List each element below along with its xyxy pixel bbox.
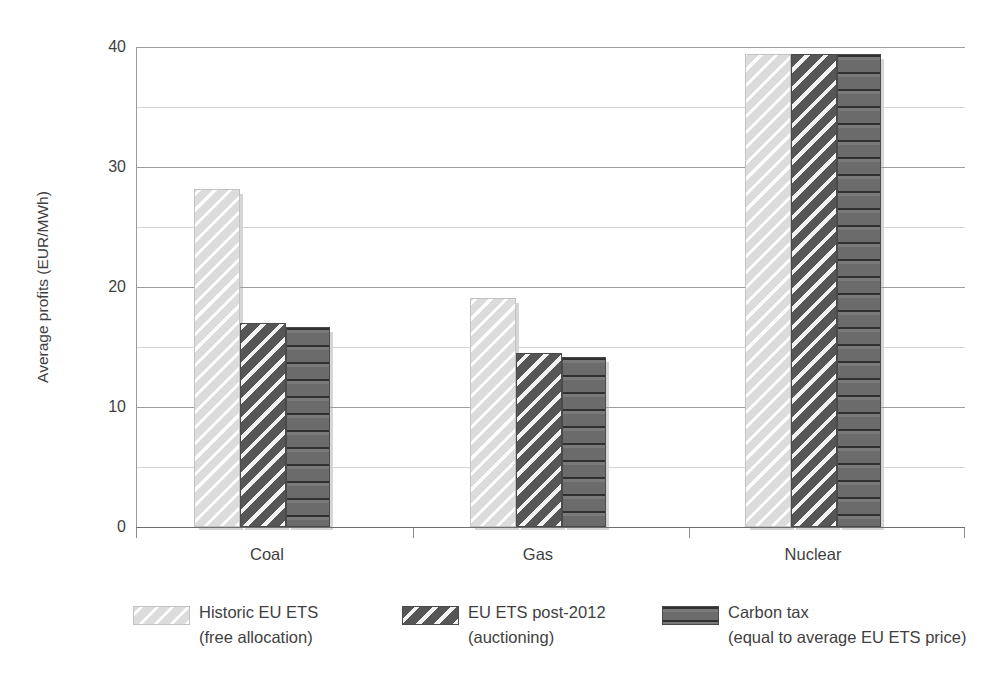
bar-gas-historic-eu-ets[interactable] (470, 298, 516, 527)
y-tick-label-0: 0 (86, 519, 126, 535)
x-axis-line (136, 527, 965, 528)
legend-label-carbon-tax: Carbon tax (equal to average EU ETS pric… (728, 600, 966, 650)
bar-gas-eu-ets-post-2012[interactable] (516, 353, 562, 527)
x-axis-tick-start (136, 528, 137, 538)
y-tick-label-40: 40 (86, 39, 126, 55)
chart-legend: Historic EU ETS (free allocation) EU ETS… (0, 600, 985, 670)
bar-nuclear-carbon-tax[interactable] (837, 54, 881, 527)
legend-swatch-carbon-tax (662, 606, 719, 625)
category-label-nuclear: Nuclear (748, 543, 878, 565)
legend-label-carbon-tax-line1: Carbon tax (728, 603, 809, 621)
x-axis-tick-2 (689, 528, 690, 538)
plot-area (136, 47, 965, 527)
legend-swatch-historic-eu-ets (133, 606, 190, 625)
legend-label-historic-eu-ets-line2: (free allocation) (199, 625, 318, 650)
y-tick-label-30: 30 (86, 159, 126, 175)
bar-coal-historic-eu-ets[interactable] (194, 189, 240, 527)
category-label-gas: Gas (473, 543, 603, 565)
bar-nuclear-historic-eu-ets[interactable] (745, 54, 791, 527)
y-axis-tick-labels: 40 30 20 10 0 (78, 47, 126, 527)
bar-gas-carbon-tax[interactable] (562, 357, 606, 527)
x-axis-category-labels: Coal Gas Nuclear (136, 543, 965, 569)
category-label-coal: Coal (202, 543, 332, 565)
legend-label-historic-eu-ets-line1: Historic EU ETS (199, 603, 318, 621)
bar-coal-carbon-tax[interactable] (286, 327, 330, 527)
gridline-40 (136, 47, 965, 48)
bar-coal-eu-ets-post-2012[interactable] (240, 323, 286, 527)
y-tick-label-20: 20 (86, 279, 126, 295)
legend-label-eu-ets-post-2012: EU ETS post-2012 (auctioning) (468, 600, 606, 650)
legend-label-eu-ets-post-2012-line1: EU ETS post-2012 (468, 603, 606, 621)
y-axis-title: Average profits (EUR/MWh) (30, 47, 56, 527)
x-axis-tick-end (964, 528, 965, 538)
x-axis-tick-1 (413, 528, 414, 538)
legend-label-eu-ets-post-2012-line2: (auctioning) (468, 625, 606, 650)
y-axis-title-label: Average profits (EUR/MWh) (34, 191, 52, 383)
y-tick-label-10: 10 (86, 399, 126, 415)
legend-swatch-eu-ets-post-2012 (402, 606, 459, 625)
legend-label-carbon-tax-line2: (equal to average EU ETS price) (728, 625, 966, 650)
chart-title (0, 0, 985, 6)
y-axis-line (136, 47, 137, 527)
legend-label-historic-eu-ets: Historic EU ETS (free allocation) (199, 600, 318, 650)
bar-nuclear-eu-ets-post-2012[interactable] (791, 54, 837, 527)
